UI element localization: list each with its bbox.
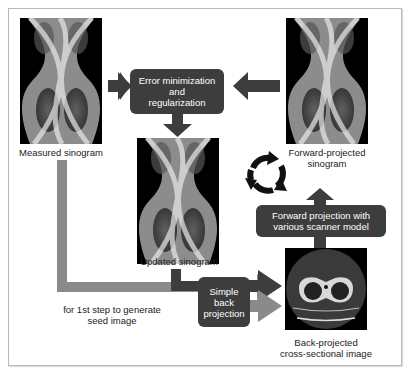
updated-sinogram-label: Updated sinogram <box>128 256 230 267</box>
error-minimization-line1: Error minimization <box>139 75 216 86</box>
forward-projection-box: Forward projection with various scanner … <box>256 205 386 237</box>
forward-projection-line1: Forward projection with <box>272 210 370 221</box>
seed-note-line2: seed image <box>52 315 172 326</box>
arrow-measured-to-error <box>108 72 132 100</box>
forward-projected-sinogram-label: Forward-projected sinogram <box>276 147 378 169</box>
updated-sinogram-image <box>137 138 219 264</box>
seed-note-line1: for 1st step to generate <box>52 304 172 315</box>
forward-projection-line2: various scanner model <box>273 221 369 232</box>
simple-back-projection-line2: back <box>214 297 234 308</box>
measured-sinogram-image <box>20 18 102 144</box>
back-projected-label-line2: cross-sectional image <box>266 348 386 359</box>
simple-back-projection-box: Simple back projection <box>198 277 250 327</box>
back-projected-ct-image <box>285 248 367 330</box>
error-minimization-line3: regularization <box>148 97 205 108</box>
arrow-forward-to-error <box>233 72 280 100</box>
measured-sinogram-label: Measured sinogram <box>10 147 112 158</box>
forward-projected-sinogram-image <box>286 18 368 144</box>
back-projected-label-line1: Back-projected <box>266 337 386 348</box>
simple-back-projection-line1: Simple <box>209 286 238 297</box>
back-projected-label: Back-projected cross-sectional image <box>266 337 386 359</box>
error-minimization-line2: and <box>169 86 185 97</box>
simple-back-projection-line3: projection <box>203 308 244 319</box>
seed-note: for 1st step to generate seed image <box>52 304 172 326</box>
arrow-error-to-updated <box>163 114 192 137</box>
error-minimization-box: Error minimization and regularization <box>130 69 224 114</box>
forward-projected-label-line2: sinogram <box>276 158 378 169</box>
forward-projected-label-line1: Forward-projected <box>276 147 378 158</box>
